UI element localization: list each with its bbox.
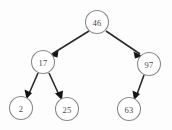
node-label: 46 xyxy=(92,18,101,28)
node-label: 2 xyxy=(19,104,24,114)
tree-node-left-right[interactable]: 25 xyxy=(56,98,79,121)
edge-46-97 xyxy=(106,31,143,59)
node-label: 25 xyxy=(62,105,71,115)
tree-node-root[interactable]: 46 xyxy=(86,11,109,34)
edge-97-63 xyxy=(133,75,145,100)
tree-canvas: 46 17 97 2 25 63 xyxy=(0,0,172,130)
edge-46-17 xyxy=(50,31,89,58)
node-group: 46 17 97 2 25 63 xyxy=(10,11,161,121)
tree-node-left[interactable]: 17 xyxy=(32,51,55,74)
node-label: 97 xyxy=(144,60,153,70)
tree-node-right-left[interactable]: 63 xyxy=(118,98,141,121)
edge-17-25 xyxy=(49,73,63,100)
tree-node-right[interactable]: 97 xyxy=(138,53,161,76)
edge-17-2 xyxy=(25,73,39,99)
tree-node-left-left[interactable]: 2 xyxy=(10,97,33,120)
binary-tree-diagram: 46 17 97 2 25 63 xyxy=(0,0,172,130)
node-label: 63 xyxy=(124,105,133,115)
edge-line xyxy=(106,31,140,54)
edge-line xyxy=(52,31,89,54)
node-label: 17 xyxy=(38,58,47,68)
